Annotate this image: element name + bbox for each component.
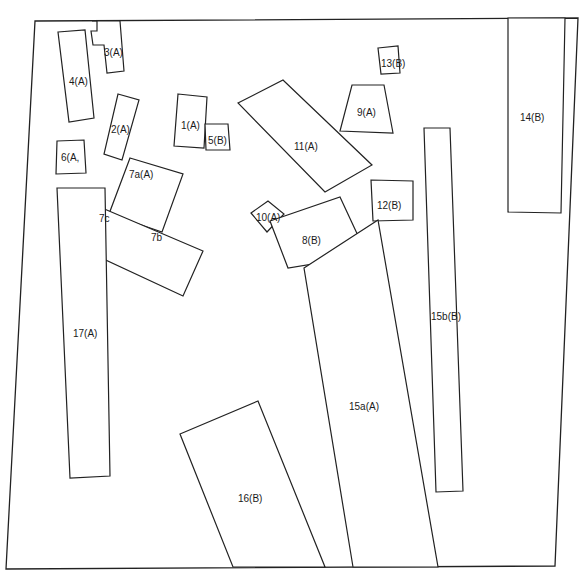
plot-label-10a: 10(A) (256, 212, 280, 223)
plot-15aa (304, 220, 438, 567)
plot-label-15aa: 15a(A) (349, 401, 379, 412)
plot-label-9a: 9(A) (357, 107, 376, 118)
plots-layer (56, 18, 565, 567)
site-plan-diagram: 3(A)4(A)2(A)1(A)5(B)6(A,7a(A)17(A)11(A)9… (0, 0, 586, 579)
plot-label-2a: 2(A) (111, 124, 130, 135)
plot-label-16b: 16(B) (238, 493, 262, 504)
plot-label-3a: 3(A) (104, 47, 123, 58)
plot-label-13b: 13(B) (381, 58, 405, 69)
sublabel-7b: 7b (151, 232, 163, 243)
plot-16b (180, 401, 325, 567)
plot-label-12b: 12(B) (377, 200, 401, 211)
plot-label-8b: 8(B) (302, 235, 321, 246)
sublabel-7c: 7c (99, 213, 110, 224)
plot-label-1a: 1(A) (181, 120, 200, 131)
plot-label-11a: 11(A) (294, 141, 318, 152)
plot-label-4a: 4(A) (69, 76, 88, 87)
plot-label-6a: 6(A, (61, 152, 79, 163)
plot-label-7aa: 7a(A) (129, 169, 153, 180)
plot-label-15bb: 15b(B) (431, 311, 461, 322)
plot-label-5b: 5(B) (208, 135, 227, 146)
plot-label-17a: 17(A) (73, 328, 97, 339)
site-plan-canvas: 3(A)4(A)2(A)1(A)5(B)6(A,7a(A)17(A)11(A)9… (0, 0, 586, 579)
plot-15bb (424, 128, 463, 492)
plot-label-14b: 14(B) (520, 112, 544, 123)
